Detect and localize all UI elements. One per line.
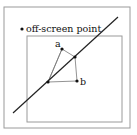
inner-frame-screen	[27, 36, 122, 122]
clipping-diagram: off-screen point a b	[0, 0, 137, 135]
point-b-label: b	[80, 76, 86, 87]
point-a-dot	[60, 47, 63, 50]
point-a-label: a	[55, 38, 61, 49]
point-b-dot	[75, 79, 78, 82]
triangle-edge-a-lower	[48, 49, 62, 82]
offscreen-point-dot	[20, 27, 23, 30]
intersection-upper-dot	[73, 55, 76, 58]
offscreen-point-label: off-screen point	[26, 23, 101, 34]
intersection-lower-dot	[46, 80, 49, 83]
